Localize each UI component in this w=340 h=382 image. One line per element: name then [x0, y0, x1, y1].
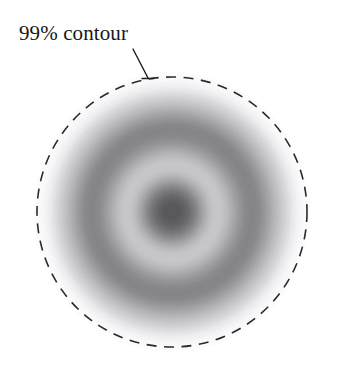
contour-annotation-label: 99% contour: [19, 23, 128, 44]
contour-figure: 99% contour: [0, 0, 340, 382]
contour-figure-canvas: [0, 0, 340, 382]
